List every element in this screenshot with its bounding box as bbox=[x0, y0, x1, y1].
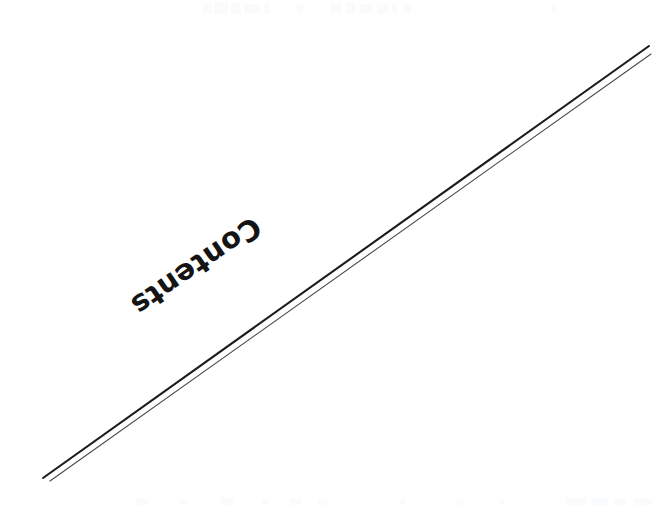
diagonal-rule-lines bbox=[0, 0, 663, 509]
lower-rule-line bbox=[50, 54, 651, 481]
upper-rule-line bbox=[43, 46, 649, 478]
scanned-page: Contents bbox=[0, 0, 663, 509]
